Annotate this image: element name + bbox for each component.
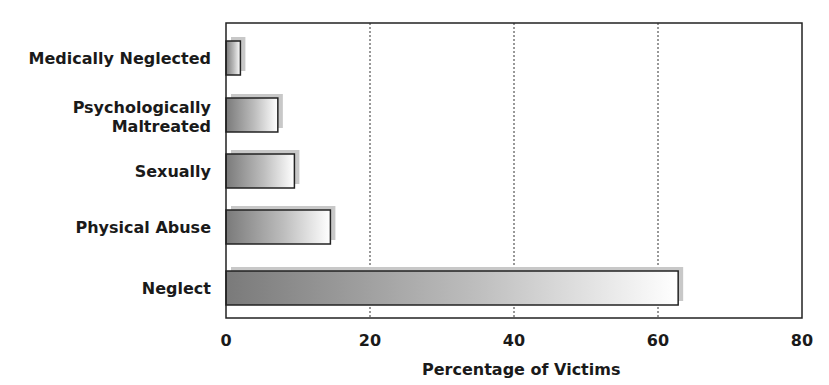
x-tick-label: 0 [220, 331, 231, 350]
category-label: Neglect [142, 279, 211, 298]
category-label: Medically Neglected [29, 49, 211, 68]
x-tick-label: 40 [503, 331, 525, 350]
bar [226, 210, 330, 244]
category-label: Sexually [135, 162, 211, 181]
x-tick-label: 80 [791, 331, 813, 350]
bars [226, 41, 678, 305]
x-tick-label: 20 [359, 331, 381, 350]
bar-shadows [231, 37, 683, 301]
x-tick-label: 60 [647, 331, 669, 350]
bar [226, 154, 294, 188]
x-axis-label: Percentage of Victims [422, 360, 620, 379]
category-label: Physical Abuse [76, 218, 212, 237]
bar [226, 271, 678, 305]
category-label: PsychologicallyMaltreated [73, 98, 211, 136]
bar [226, 98, 278, 132]
bar [226, 41, 240, 75]
